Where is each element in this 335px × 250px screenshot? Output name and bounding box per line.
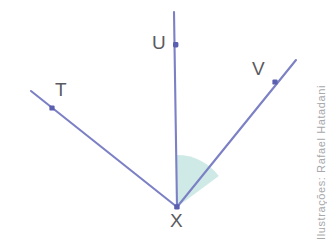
- figure-canvas: U T V X Ilustrações: Rafael Hatadani: [0, 0, 335, 250]
- point-marker-T: [49, 105, 54, 110]
- point-marker-U: [173, 42, 178, 47]
- vertex-label-X: X: [170, 211, 183, 230]
- angle-diagram-svg: [0, 0, 335, 250]
- point-label-T: T: [55, 80, 67, 99]
- point-label-V: V: [252, 59, 265, 78]
- point-marker-V: [272, 79, 277, 84]
- ray-XU: [174, 12, 177, 207]
- point-label-U: U: [152, 33, 166, 52]
- illustration-credit: Ilustrações: Rafael Hatadani: [315, 50, 333, 240]
- ray-XV: [177, 60, 296, 207]
- point-marker-X: [174, 204, 179, 209]
